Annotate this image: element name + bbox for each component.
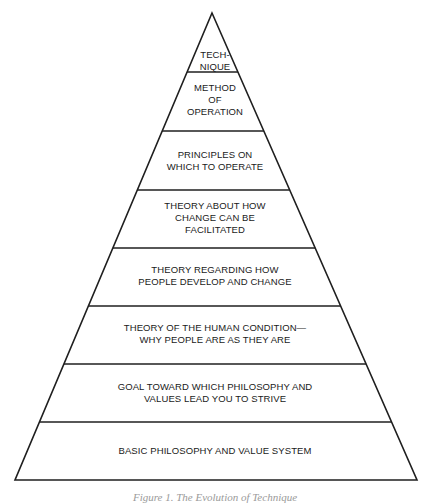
tier-basic-philosophy: BASIC PHILOSOPHY AND VALUE SYSTEM [0, 445, 430, 457]
tier-goal: GOAL TOWARD WHICH PHILOSOPHY AND VALUES … [0, 381, 430, 405]
tier-theory-of-change: THEORY ABOUT HOW CHANGE CAN BE FACILITAT… [0, 200, 430, 236]
tier-method-of-operation: METHOD OF OPERATION [0, 82, 430, 118]
tier-principles: PRINCIPLES ON WHICH TO OPERATE [0, 149, 430, 173]
tier-technique: TECH- NIQUE [0, 49, 430, 73]
tier-theory-of-development: THEORY REGARDING HOW PEOPLE DEVELOP AND … [0, 264, 430, 288]
tier-human-condition: THEORY OF THE HUMAN CONDITION— WHY PEOPL… [0, 322, 430, 346]
figure-caption: Figure 1. The Evolution of Technique [0, 491, 430, 503]
tier-dividers [40, 72, 392, 422]
